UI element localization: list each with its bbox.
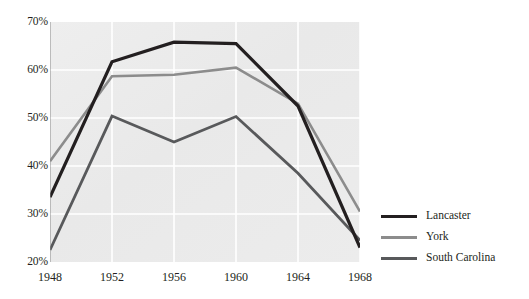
legend-label-lancaster: Lancaster: [426, 210, 471, 222]
x-axis-tick-label: 1964: [271, 271, 325, 283]
legend-swatch-lancaster: [381, 215, 417, 218]
y-axis-tick-label: 60%: [4, 64, 48, 76]
plot-svg: [50, 22, 360, 262]
line-chart: 70%60%50%40%30%20% 194819521956196019641…: [0, 0, 529, 299]
x-axis-tick-label: 1948: [23, 271, 77, 283]
y-axis-tick-label: 70%: [4, 16, 48, 28]
legend-label-south-carolina: South Carolina: [426, 252, 495, 264]
x-axis-tick-label: 1956: [147, 271, 201, 283]
x-axis-tick-label: 1968: [333, 271, 387, 283]
legend-swatch-south-carolina: [381, 257, 417, 260]
y-axis-tick-label: 50%: [4, 112, 48, 124]
legend-swatch-york: [381, 236, 417, 239]
y-axis-tick-label: 30%: [4, 208, 48, 220]
y-axis-tick-label: 20%: [4, 256, 48, 268]
y-axis-tick-label: 40%: [4, 160, 48, 172]
y-axis: 70%60%50%40%30%20%: [0, 0, 48, 299]
x-axis-tick-label: 1952: [85, 271, 139, 283]
legend-label-york: York: [426, 231, 448, 243]
plot-area: [50, 22, 360, 262]
x-axis-tick-label: 1960: [209, 271, 263, 283]
